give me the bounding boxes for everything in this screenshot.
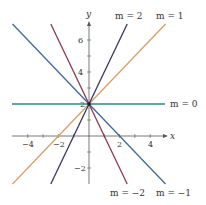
- label-mneg2: m = −2: [110, 188, 145, 198]
- y-tick-label: 6: [78, 36, 83, 45]
- x-axis-label: x: [170, 131, 175, 141]
- y-tick-label: −2: [74, 164, 86, 173]
- y-axis-arrow-icon: [87, 21, 91, 26]
- label-mneg1: m = −1: [156, 188, 191, 198]
- y-tick-label: 4: [78, 68, 83, 77]
- x-tick-label: −2: [53, 140, 65, 149]
- y-axis-label: y: [85, 9, 92, 19]
- chart: −4 −2 2 4 6 4 2 −2 x y m = 2 m = 1 m = 0…: [0, 0, 206, 205]
- x-axis-arrow-icon: [163, 134, 168, 138]
- y-intercept-point: [87, 102, 91, 106]
- x-tick-label: −4: [22, 140, 34, 149]
- x-tick-label: 4: [148, 140, 153, 149]
- x-tick-label: 2: [117, 140, 122, 149]
- label-m2: m = 2: [115, 11, 143, 21]
- label-m1: m = 1: [156, 11, 184, 21]
- label-m0: m = 0: [170, 99, 198, 109]
